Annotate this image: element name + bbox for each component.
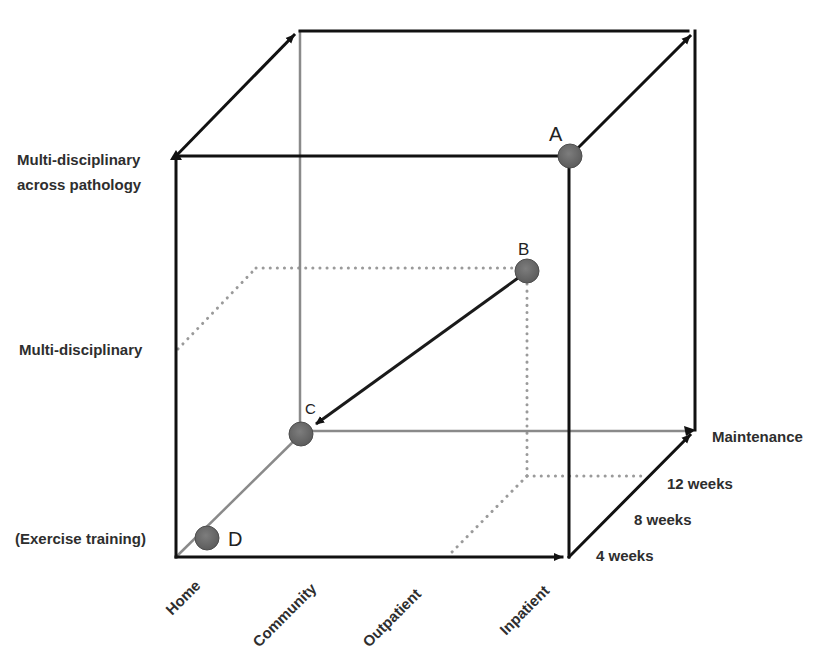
vertical-label-multidisciplinary: Multi-disciplinary bbox=[19, 341, 143, 358]
point-label-d: D bbox=[228, 528, 242, 550]
point-d bbox=[195, 526, 219, 550]
depth-label-4-weeks: 4 weeks bbox=[596, 547, 654, 564]
grey-edges bbox=[176, 30, 686, 557]
edge-top-right-diagonal bbox=[579, 36, 690, 147]
point-a bbox=[558, 144, 582, 168]
point-label-b: B bbox=[518, 240, 529, 259]
dotted-line-md-diagonal bbox=[178, 268, 256, 349]
cube-diagram: A B C D Multi-disciplinary across pathol… bbox=[0, 0, 836, 668]
depth-label-8-weeks: 8 weeks bbox=[634, 511, 692, 528]
arrow-b-to-c bbox=[316, 278, 518, 424]
vertical-label-mdap-line2: across pathology bbox=[17, 176, 142, 193]
points bbox=[195, 144, 582, 550]
depth-label-12-weeks: 12 weeks bbox=[667, 475, 733, 492]
point-label-a: A bbox=[549, 123, 563, 145]
vertical-label-exercise-training: (Exercise training) bbox=[15, 530, 146, 547]
point-label-c: C bbox=[305, 400, 316, 417]
edge-top-left-diagonal bbox=[176, 35, 294, 156]
vertical-label-mdap-line1: Multi-disciplinary bbox=[17, 151, 141, 168]
point-c bbox=[289, 422, 313, 446]
edge-depth-axis bbox=[569, 435, 690, 557]
point-b bbox=[515, 259, 539, 283]
horizontal-label-outpatient: Outpatient bbox=[359, 585, 424, 650]
dotted-line-outpatient-diagonal bbox=[450, 476, 527, 554]
horizontal-label-inpatient: Inpatient bbox=[496, 582, 552, 638]
dark-edges bbox=[176, 31, 695, 557]
depth-label-maintenance: Maintenance bbox=[712, 428, 803, 445]
horizontal-label-community: Community bbox=[249, 579, 320, 650]
dotted-guide-lines bbox=[178, 268, 645, 554]
horizontal-label-home: Home bbox=[162, 577, 203, 618]
